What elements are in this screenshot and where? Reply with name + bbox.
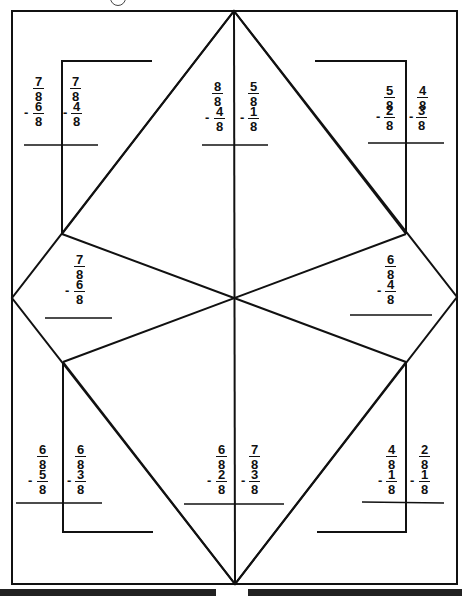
minus-sign: - xyxy=(409,110,413,123)
minus-sign: - xyxy=(377,284,381,297)
fraction-br-b-subtrahend: 18 xyxy=(419,468,430,496)
minus-sign: - xyxy=(63,106,67,119)
fraction-bl-b-subtrahend: 38 xyxy=(75,468,86,496)
minus-sign: - xyxy=(376,110,380,123)
fraction-bc-b-subtrahend: 38 xyxy=(249,468,260,496)
minus-sign: - xyxy=(205,111,209,124)
minus-sign: - xyxy=(24,106,28,119)
fraction-br-a-subtrahend: 18 xyxy=(386,468,397,496)
fraction-tl-b-subtrahend: 48 xyxy=(71,100,82,128)
fraction-bc-a-subtrahend: 28 xyxy=(216,468,227,496)
fraction-bl-a-subtrahend: 58 xyxy=(37,468,48,496)
minus-sign: - xyxy=(410,474,414,487)
fraction-tl-a-subtrahend: 68 xyxy=(33,100,44,128)
minus-sign: - xyxy=(65,284,69,297)
minus-sign: - xyxy=(241,474,245,487)
minus-sign: - xyxy=(28,474,32,487)
minus-sign: - xyxy=(207,474,211,487)
fraction-mr-subtrahend: 48 xyxy=(385,278,396,306)
minus-sign: - xyxy=(67,474,71,487)
fraction-tr-a-subtrahend: 28 xyxy=(384,104,395,132)
fraction-tc-b-subtrahend: 18 xyxy=(248,105,259,133)
minus-sign: - xyxy=(378,474,382,487)
fraction-tc-a-subtrahend: 48 xyxy=(214,105,225,133)
fraction-tr-b-subtrahend: 38 xyxy=(416,104,427,132)
fraction-ml-subtrahend: 68 xyxy=(74,278,85,306)
minus-sign: - xyxy=(240,111,244,124)
